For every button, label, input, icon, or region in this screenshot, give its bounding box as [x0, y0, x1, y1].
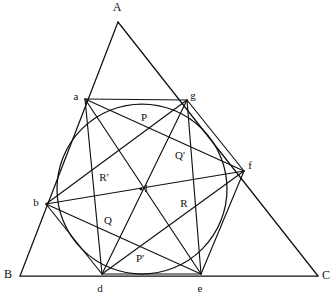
incenter-label: I: [144, 182, 148, 194]
intersection-label-R: R: [180, 197, 188, 209]
triangle-edge-CA: [118, 22, 318, 276]
circle-point-label-g: g: [190, 89, 196, 101]
chord-ad: [85, 99, 102, 274]
chord-gb: [46, 100, 187, 204]
circle-point-label-d: d: [97, 282, 103, 294]
intersection-label-Pp: P': [136, 252, 144, 264]
intersection-label-P: P: [141, 111, 147, 123]
chord-fg: [187, 100, 244, 171]
intersection-label-Qp: Q': [175, 149, 185, 161]
incenter-dot: [140, 188, 143, 191]
point-markers-group: [140, 188, 143, 191]
triangle-edge-AB: [20, 22, 118, 276]
circle-point-label-f: f: [248, 159, 252, 171]
triangle-edges-group: [20, 22, 318, 276]
intersection-label-Q: Q: [104, 214, 112, 226]
intersection-label-Rp: R': [99, 171, 108, 183]
vertex-label-A: A: [113, 0, 122, 14]
geometry-diagram: ABCagfedbPQ'R'QRP'I: [0, 0, 336, 301]
vertex-label-C: C: [322, 268, 330, 282]
chord-ag: [85, 99, 187, 100]
vertex-label-B: B: [4, 267, 12, 281]
circle-point-label-e: e: [198, 282, 203, 294]
point-labels-group: ABCagfedbPQ'R'QRP'I: [4, 0, 330, 294]
circle-point-label-b: b: [33, 196, 39, 208]
chord-bd: [46, 204, 102, 274]
figure-canvas: ABCagfedbPQ'R'QRP'I: [0, 0, 336, 301]
circle-point-label-a: a: [74, 90, 79, 102]
